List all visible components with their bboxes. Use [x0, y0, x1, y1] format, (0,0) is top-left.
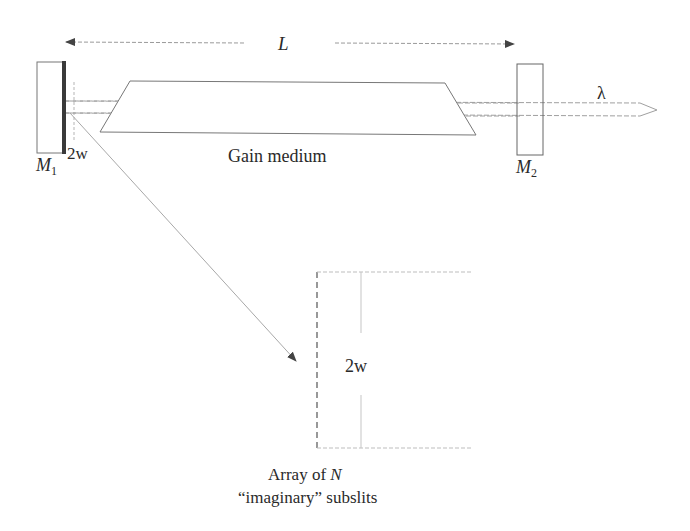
mirror-m1-label: M1: [36, 156, 57, 177]
m1-reflective-coating: [62, 61, 66, 154]
subslit-width-label: 2w: [345, 357, 367, 375]
wavelength-label: λ: [597, 84, 606, 102]
mirror-m2: [517, 64, 543, 155]
subslit-array: [317, 272, 472, 449]
mirror-m1: [37, 61, 66, 154]
subslit-caption-line2: “imaginary” subslits: [238, 489, 377, 506]
subslit-caption-line1: Array of N: [268, 466, 342, 483]
mirror-m2-label: M2: [516, 158, 537, 179]
gain-medium: [100, 81, 476, 135]
cavity-length-arrow: [66, 42, 514, 44]
laser-cavity-diagram: [0, 0, 690, 531]
m1-beam-width-label: 2w: [67, 145, 88, 162]
gain-medium-label: Gain medium: [228, 147, 326, 165]
cavity-length-label: L: [278, 34, 289, 53]
